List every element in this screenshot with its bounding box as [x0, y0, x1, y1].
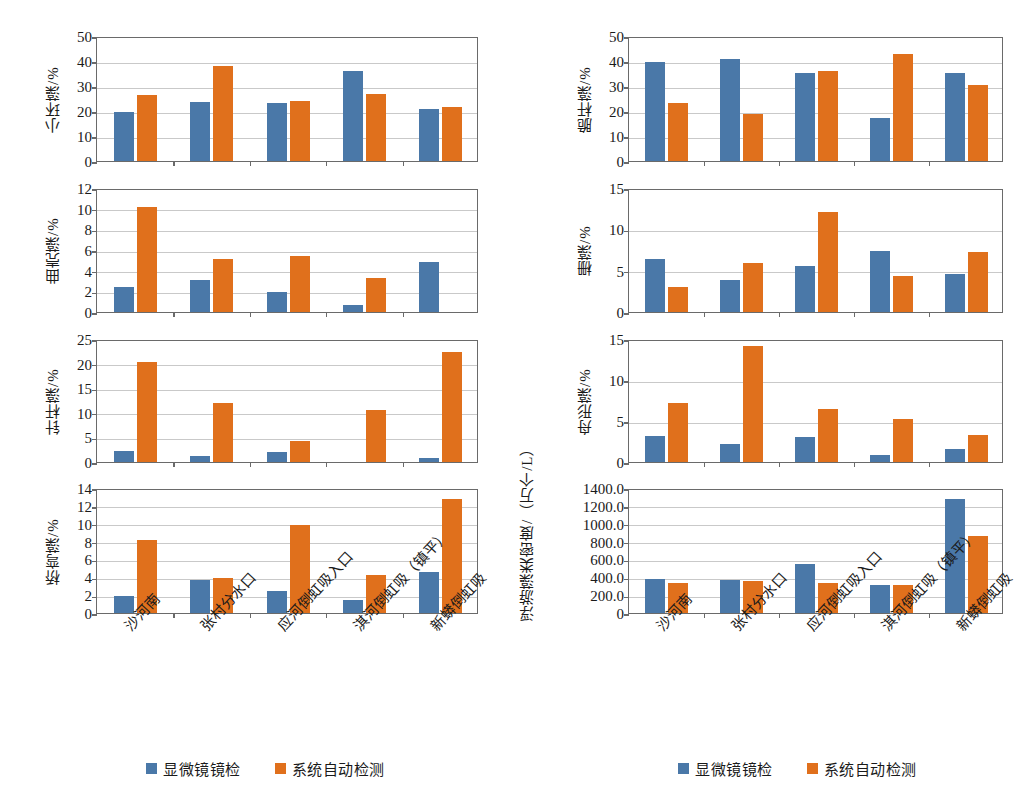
y-tick-label: 1000.0	[583, 517, 624, 532]
y-tick-mark	[624, 489, 629, 490]
y-tick-label: 600.0	[590, 553, 624, 568]
legend-entry: 系统自动检测	[807, 758, 917, 779]
y-tick-label: 200.0	[590, 589, 624, 604]
x-tick-mark	[704, 613, 705, 618]
x-tick-mark	[929, 613, 930, 618]
legend-label: 显微镜镜检	[163, 758, 241, 779]
x-tick-mark	[779, 613, 780, 618]
y-tick-mark	[624, 561, 629, 562]
y-tick-mark	[624, 614, 629, 615]
legend-entry: 系统自动检测	[275, 758, 385, 779]
y-tick-labels-fuyouzaolei: 0200.0400.0600.0800.01000.01200.01400.0	[556, 489, 624, 614]
y-tick-label: 1200.0	[583, 499, 624, 514]
y-tick-label: 800.0	[590, 535, 624, 550]
y-tick-label: 0	[617, 607, 625, 622]
y-tick-label: 1400.0	[583, 482, 624, 497]
y-tick-mark	[624, 525, 629, 526]
y-tick-mark	[624, 597, 629, 598]
figure-root: 小环藻/%01020304050脆杆藻/%01020304050曲壳藻/%024…	[0, 0, 1034, 808]
y-axis-label-fuyouzaolei: 浮游藻类密度/（万个/L）	[520, 482, 536, 621]
legend-entry: 显微镜镜检	[678, 758, 773, 779]
y-tick-mark	[624, 579, 629, 580]
y-tick-label: 400.0	[590, 571, 624, 586]
x-tick-mark	[854, 613, 855, 618]
legend-swatch	[146, 763, 157, 774]
y-tick-mark	[624, 507, 629, 508]
legend-label: 显微镜镜检	[695, 758, 773, 779]
legend-left: 显微镜镜检系统自动检测	[146, 758, 385, 779]
legend-swatch	[275, 763, 286, 774]
legend-swatch	[807, 763, 818, 774]
legend-label: 系统自动检测	[824, 758, 917, 779]
legend-label: 系统自动检测	[292, 758, 385, 779]
legend-right: 显微镜镜检系统自动检测	[678, 758, 917, 779]
x-axis-labels-right: 沙河南张村分水口应河倒虹吸入口淇河倒虹吸（镇平）新蟒倒虹吸	[0, 0, 1034, 140]
y-tick-mark	[624, 543, 629, 544]
legend-swatch	[678, 763, 689, 774]
legend-entry: 显微镜镜检	[146, 758, 241, 779]
bar-显微镜镜检	[795, 564, 815, 613]
